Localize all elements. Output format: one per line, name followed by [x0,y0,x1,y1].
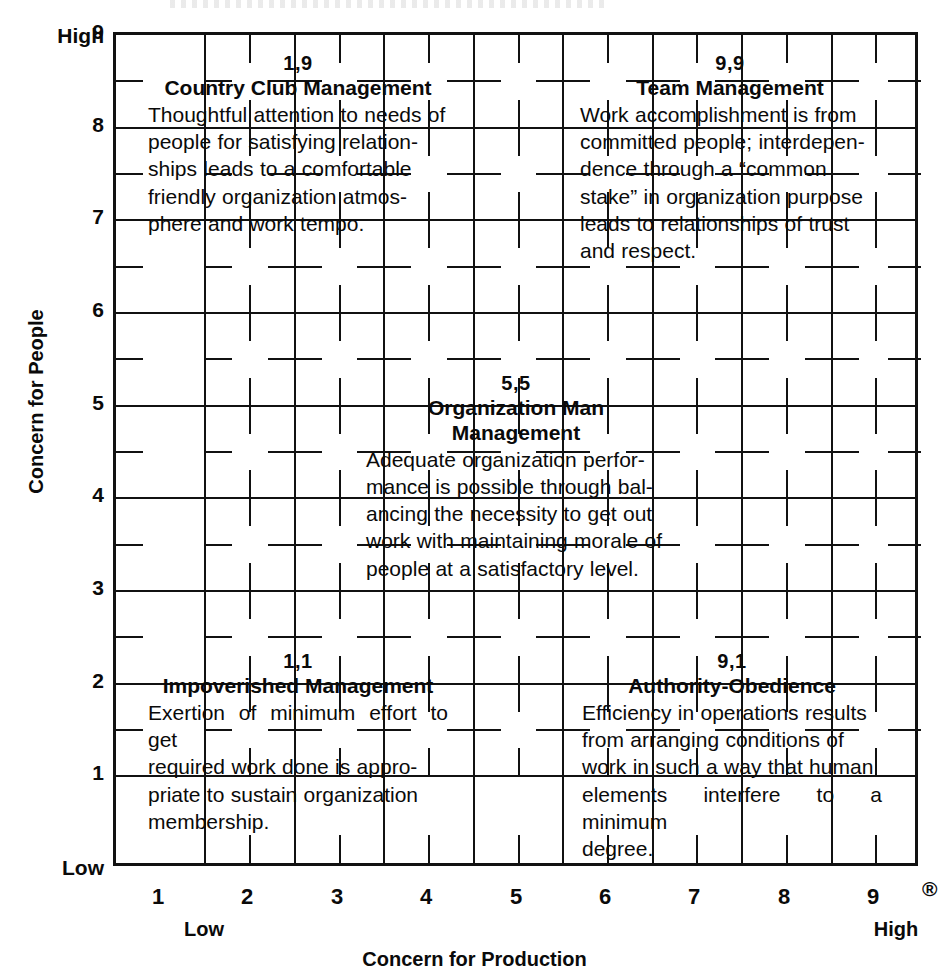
grid-tick-vertical [249,470,251,498]
grid-tick-horizontal [888,451,915,453]
grid-tick-vertical [339,498,341,526]
grid-tick-vertical [607,313,609,341]
x-axis-tick-6: 6 [575,884,635,910]
grid-tick-horizontal [116,266,143,268]
grid-tick-horizontal [626,636,653,638]
grid-tick-horizontal [805,636,832,638]
grid-tick-horizontal [742,358,769,360]
grid-cell-body-line: from arranging conditions of [582,726,882,753]
grid-tick-vertical [339,563,341,591]
grid-cell-body-line: friendly organization atmos- [148,183,448,210]
grid-tick-vertical [249,285,251,313]
grid-cell-body-line: Work accomplishment is from [580,101,880,128]
grid-cell-body: Adequate organization perfor-mance is po… [366,446,666,582]
grid-tick-horizontal [888,636,915,638]
grid-tick-vertical [518,35,520,63]
grid-tick-horizontal [653,636,680,638]
y-axis-tick-8: 8 [0,114,104,135]
grid-tick-horizontal [888,173,915,175]
grid-cell-coord: 1,1 [148,650,448,673]
x-axis-tick-7: 7 [664,884,724,910]
grid-tick-vertical [518,684,520,712]
grid-cell-body-line: Efficiency in operations results [582,699,882,726]
grid-tick-horizontal [205,266,232,268]
grid-tick-vertical [875,591,877,619]
grid-cell-body: Efficiency in operations resultsfrom arr… [582,699,882,863]
grid-tick-vertical [786,498,788,526]
grid-cell-body-line: Exertion of minimum effort to get [148,699,448,754]
grid-tick-horizontal [205,544,232,546]
grid-tick-horizontal [474,80,501,82]
grid-tick-vertical [518,220,520,248]
grid-tick-vertical [339,406,341,434]
grid-tick-horizontal [268,358,295,360]
x-axis-low-label: Low [174,918,234,941]
grid-tick-horizontal [205,451,232,453]
grid-cell-body-line: work in such a way that human [582,753,882,780]
grid-tick-vertical [339,378,341,406]
grid-tick-horizontal [295,544,322,546]
grid-cell-body-line: priate to sustain organization [148,781,448,808]
grid-tick-vertical [249,313,251,341]
grid-tick-horizontal [742,544,769,546]
y-axis-tick-3: 3 [0,577,104,598]
y-axis-tick-9: 9 [0,21,104,42]
grid-cell-body: Exertion of minimum effort to getrequire… [148,699,448,835]
grid-tick-vertical [786,470,788,498]
x-axis-tick-5: 5 [486,884,546,910]
grid-tick-vertical [875,406,877,434]
grid-tick-vertical [249,406,251,434]
scan-artifact [170,0,610,8]
grid-tick-horizontal [563,358,590,360]
grid-tick-horizontal [447,266,474,268]
grid-tick-horizontal [474,358,501,360]
grid-tick-horizontal [447,173,474,175]
grid-tick-vertical [786,378,788,406]
grid-tick-horizontal [205,636,232,638]
grid-tick-horizontal [536,80,563,82]
grid-tick-horizontal [357,636,384,638]
x-axis-tick-8: 8 [754,884,814,910]
grid-tick-vertical [786,563,788,591]
grid-tick-horizontal [805,451,832,453]
grid-cell-body-line: work with maintaining morale of [366,527,666,554]
grid-tick-horizontal [268,451,295,453]
grid-tick-horizontal [805,544,832,546]
grid-tick-horizontal [205,358,232,360]
grid-tick-horizontal [563,266,590,268]
grid-cell-body-line: degree. [582,835,882,862]
grid-tick-horizontal [295,451,322,453]
grid-tick-horizontal [832,358,859,360]
grid-cell-body-line: dence through a “common [580,155,880,182]
grid-tick-vertical [875,313,877,341]
grid-cell-9-9: 9,9 Team Management Work accomplishment … [580,52,880,265]
y-axis-tick-6: 6 [0,299,104,320]
grid-tick-horizontal [805,266,832,268]
grid-tick-horizontal [116,173,143,175]
grid-tick-vertical [786,313,788,341]
grid-tick-horizontal [474,173,501,175]
grid-tick-vertical [339,285,341,313]
grid-tick-vertical [607,285,609,313]
grid-tick-horizontal [742,266,769,268]
grid-tick-vertical [518,591,520,619]
grid-cell-body-line: ancing the necessity to get out [366,500,666,527]
grid-tick-vertical [518,835,520,863]
grid-tick-vertical [875,563,877,591]
grid-tick-vertical [339,591,341,619]
grid-tick-horizontal [888,544,915,546]
grid-tick-horizontal [116,80,143,82]
grid-tick-horizontal [384,636,411,638]
grid-tick-vertical [339,313,341,341]
grid-tick-horizontal [357,266,384,268]
grid-tick-horizontal [474,266,501,268]
grid-tick-horizontal [536,173,563,175]
grid-tick-vertical [696,591,698,619]
grid-tick-vertical [875,470,877,498]
grid-line-horizontal [116,312,915,314]
grid-tick-horizontal [384,358,411,360]
grid-tick-horizontal [536,729,563,731]
grid-tick-horizontal [653,358,680,360]
grid-tick-horizontal [295,358,322,360]
grid-cell-body: Work accomplishment is fromcommitted peo… [580,101,880,265]
